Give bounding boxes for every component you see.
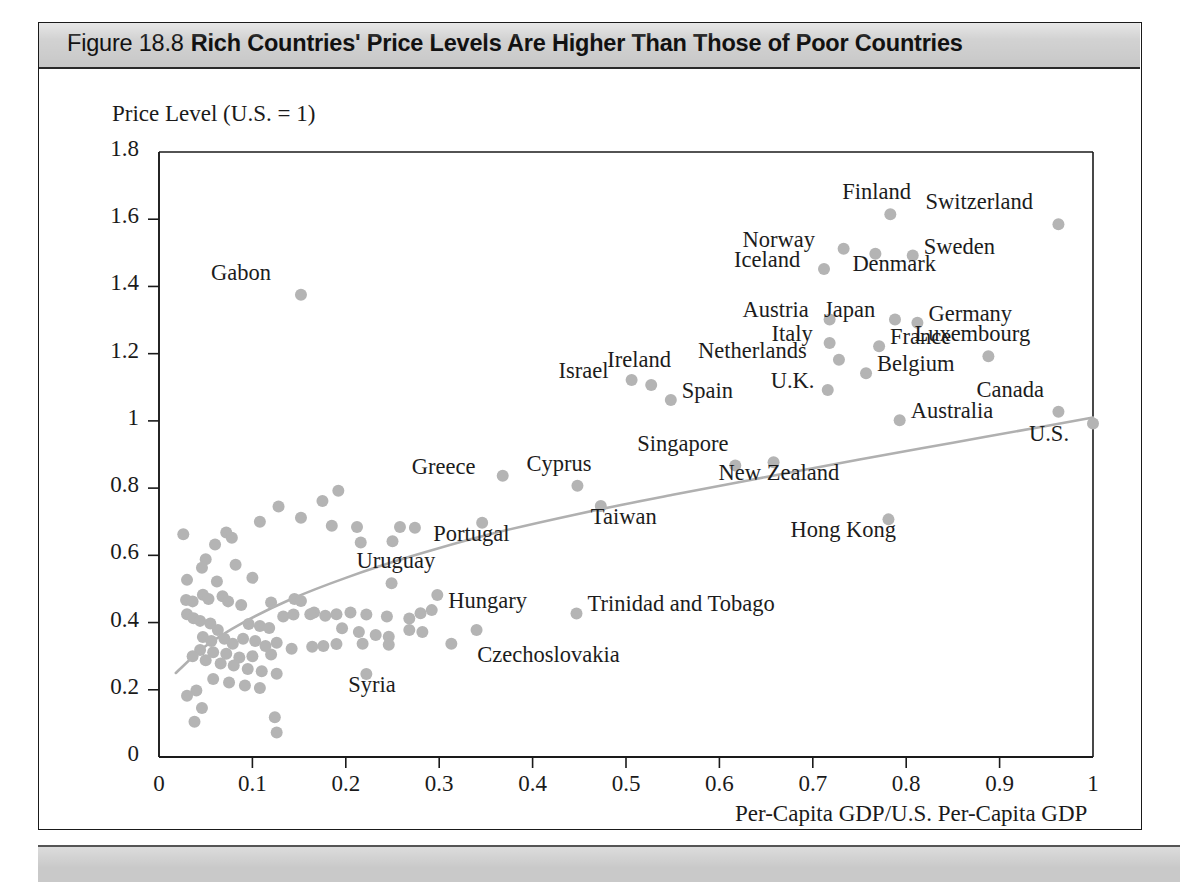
data-point [237,633,249,645]
data-point [203,593,215,605]
data-point [246,572,258,584]
point-label-japan: Japan [824,297,875,323]
data-point [235,599,247,611]
data-point [336,622,348,634]
data-point [381,611,393,623]
point-label-greece: Greece [412,454,476,480]
data-point [409,522,421,534]
data-point [181,574,193,586]
data-point [227,638,239,650]
data-point [211,576,223,588]
data-point [226,532,238,544]
data-point [403,613,415,625]
data-point [403,624,415,636]
data-point [196,562,208,574]
data-point [200,654,212,666]
point-label-iceland: Iceland [734,247,800,273]
point-label-ireland: Ireland [607,347,671,373]
data-point [187,650,199,662]
y-tick-label: 0.6 [87,539,139,565]
data-point-ireland [645,379,657,391]
data-point [344,606,356,618]
data-point [394,521,406,533]
x-tick-label: 0.1 [226,771,278,797]
data-point [415,607,427,619]
point-label-netherlands: Netherlands [698,338,807,364]
point-label-hong-kong: Hong Kong [790,517,896,543]
data-point-australia [894,414,906,426]
data-point [304,608,316,620]
data-point-u-s- [1087,418,1099,430]
x-tick-label: 0.4 [507,771,559,797]
data-point [357,638,369,650]
y-tick-label: 1.8 [87,136,139,162]
data-point [387,535,399,547]
data-point [196,702,208,714]
data-point [242,663,254,675]
data-point [256,665,268,677]
x-tick-label: 0.5 [600,771,652,797]
data-point [215,658,227,670]
point-label-austria: Austria [743,297,809,323]
data-point [351,521,363,533]
data-point-luxembourg [982,350,994,362]
point-label-taiwan: Taiwan [591,504,657,530]
data-point [209,539,221,551]
data-point [416,626,428,638]
point-label-switzerland: Switzerland [925,189,1032,215]
point-label-trinidad-and-tobago: Trinidad and Tobago [587,591,774,617]
data-point [277,611,289,623]
point-label-u-k-: U.K. [771,368,815,394]
data-point-uruguay [386,577,398,589]
point-label-hungary: Hungary [448,588,527,614]
point-label-finland: Finland [842,179,911,205]
data-point-spain [665,394,677,406]
data-point [223,676,235,688]
point-label-israel: Israel [559,358,609,384]
data-point [254,516,266,528]
data-point [287,608,299,620]
scatter-canvas [0,0,1180,882]
data-point [355,537,367,549]
data-point [330,638,342,650]
data-point [249,635,261,647]
data-point [383,639,395,651]
x-tick-label: 0 [133,771,185,797]
data-point-norway [838,243,850,255]
data-point [207,673,219,685]
x-tick-label: 0.8 [880,771,932,797]
x-tick-label: 1 [1067,771,1119,797]
data-point [286,643,298,655]
data-point [205,635,217,647]
data-point [426,604,438,616]
y-tick-label: 1.6 [87,203,139,229]
data-point [271,726,283,738]
data-point [319,610,331,622]
data-point-iceland [818,263,830,275]
data-point-u-k- [822,384,834,396]
data-point [271,668,283,680]
data-point-canada [1052,406,1064,418]
data-point [295,595,307,607]
y-tick-label: 0 [87,741,139,767]
data-point-belgium [860,367,872,379]
point-label-new-zealand: New Zealand [719,460,840,486]
data-point [269,711,281,723]
y-tick-label: 1 [87,405,139,431]
figure-18-8: Figure 18.8Rich Countries' Price Levels … [0,0,1180,882]
point-label-belgium: Belgium [877,351,955,377]
data-point [330,608,342,620]
data-point [177,528,189,540]
data-point [353,626,365,638]
data-point [243,618,255,630]
point-label-syria: Syria [348,672,396,698]
point-label-spain: Spain [682,378,733,404]
x-tick-label: 0.2 [320,771,372,797]
point-label-portugal: Portugal [433,521,509,547]
data-point [332,485,344,497]
data-point [306,641,318,653]
data-point [239,679,251,691]
point-label-u-s-: U.S. [1029,421,1069,447]
data-point [317,640,329,652]
data-point-finland [884,208,896,220]
